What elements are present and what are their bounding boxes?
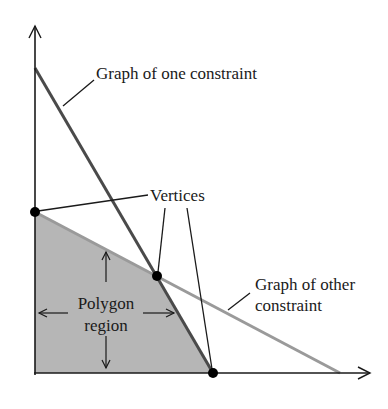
one-constraint-label: Graph of one constraint xyxy=(96,64,257,83)
other-constraint-leader xyxy=(228,293,250,310)
vertex-dot xyxy=(208,368,218,378)
vertices-leader-middle xyxy=(158,208,165,272)
feasible-region-diagram: Graph of one constraint Vertices Graph o… xyxy=(0,0,388,409)
other-constraint-label-line1: Graph of other xyxy=(255,275,355,294)
other-constraint-label-line2: constraint xyxy=(255,296,322,315)
vertices-leader-left xyxy=(38,195,148,211)
polygon-label-line1: Polygon xyxy=(78,294,135,313)
vertex-dot xyxy=(30,207,40,217)
polygon-label-line2: region xyxy=(84,316,128,335)
vertices-label: Vertices xyxy=(150,186,205,205)
one-constraint-leader xyxy=(63,80,94,106)
vertex-dot xyxy=(152,271,162,281)
